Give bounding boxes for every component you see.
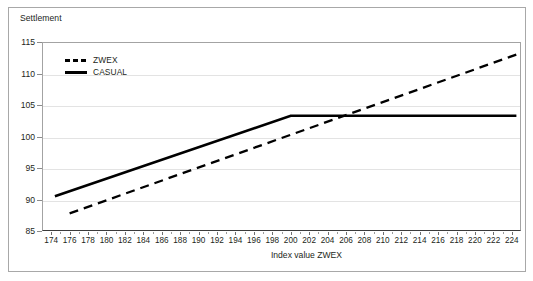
series-line-casual	[55, 116, 516, 197]
series-line-zwex	[70, 55, 517, 214]
series-layer	[0, 0, 533, 281]
chart-figure: Settlement 115 110 105 100 95 90 85 1741…	[0, 0, 533, 281]
